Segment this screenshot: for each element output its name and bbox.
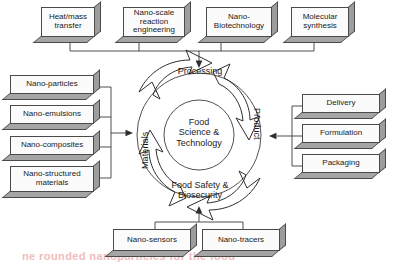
box-nano-scale-reaction-engineering[interactable]: Nano-scale reaction engineering	[123, 7, 191, 43]
box-side-face	[93, 99, 100, 124]
box-label-line-1: Packaging	[320, 159, 361, 168]
box-label-line-1: Nano-	[228, 12, 250, 21]
box-label-line-2: Biotechnology	[214, 21, 264, 30]
box-bottom-face	[33, 36, 95, 43]
box-label: Nano-scale reaction engineering	[123, 7, 185, 37]
box-label: Heat/mass transfer	[41, 7, 95, 37]
box-side-face	[279, 223, 286, 251]
arrowhead-bottom	[196, 206, 203, 214]
box-label: Nano- Biotechnology	[206, 7, 272, 37]
box-bottom-face	[294, 172, 380, 179]
box-label: Formulation	[302, 124, 380, 143]
box-bottom-face	[2, 154, 94, 161]
box-nano-emulsions[interactable]: Nano-emulsions	[10, 105, 100, 130]
box-label-line-2: transfer	[54, 21, 81, 30]
box-label-line-1: Molecular	[303, 12, 338, 21]
box-nano-sensors[interactable]: Nano-sensors	[113, 229, 197, 257]
box-molecular-synthesis[interactable]: Molecular synthesis	[291, 7, 355, 43]
box-packaging[interactable]: Packaging	[302, 154, 386, 179]
box-label-line-1: Nano-tracers	[216, 236, 266, 245]
box-label-line-1: Nano-structured	[23, 169, 80, 178]
box-label-line-2: synthesis	[303, 21, 336, 30]
box-label-line-1: Nano-composites	[19, 141, 85, 150]
box-side-face	[348, 1, 355, 37]
box-bottom-face	[2, 191, 94, 198]
box-bottom-face	[294, 112, 380, 119]
box-bottom-face	[198, 36, 272, 43]
box-side-face	[379, 88, 386, 113]
box-label-line-2: materials	[36, 178, 68, 187]
box-label: Nano-sensors	[113, 229, 191, 251]
box-label: Nano-composites	[10, 136, 94, 155]
box-label-line-2: reaction	[140, 17, 168, 26]
box-delivery[interactable]: Delivery	[302, 94, 386, 119]
box-label-line-1: Nano-scale	[134, 8, 174, 17]
center-line-3: Technology	[176, 138, 222, 148]
center-line-2: Science &	[179, 127, 220, 137]
center-line-1: Food	[189, 117, 210, 127]
box-nano-composites[interactable]: Nano-composites	[10, 136, 100, 161]
box-label-line-1: Delivery	[325, 99, 358, 108]
box-bottom-face	[283, 36, 349, 43]
box-label: Nano-tracers	[202, 229, 280, 251]
arrowhead-right	[269, 133, 277, 140]
cycle-label-food-safety: Food Safety & Biosecurity	[161, 180, 239, 201]
box-bottom-face	[115, 36, 185, 43]
box-side-face	[93, 130, 100, 155]
box-bottom-face	[2, 93, 94, 100]
box-label-line-1: Heat/mass	[49, 12, 87, 21]
box-label: Nano-structured materials	[10, 166, 94, 192]
box-label-line-3: engineering	[133, 25, 175, 34]
connector-left	[100, 87, 126, 178]
center-label: Food Science & Technology	[166, 117, 232, 148]
cycle-label-food-safety-line-1: Food Safety &	[171, 180, 228, 190]
box-label-line-1: Formulation	[318, 129, 364, 138]
box-side-face	[379, 148, 386, 173]
cycle-label-materials-text: Materials	[140, 132, 150, 169]
box-side-face	[271, 1, 278, 37]
cycle-label-processing: Processing	[169, 66, 231, 76]
box-heat-mass-transfer[interactable]: Heat/mass transfer	[41, 7, 101, 43]
box-bottom-face	[194, 250, 280, 257]
box-side-face	[94, 1, 101, 37]
cycle-label-food-safety-line-2: Biosecurity	[178, 190, 222, 200]
box-side-face	[93, 69, 100, 94]
box-side-face	[379, 118, 386, 143]
box-label: Delivery	[302, 94, 380, 113]
box-label-line-1: Nano-sensors	[125, 236, 179, 245]
box-bottom-face	[105, 250, 191, 257]
box-formulation[interactable]: Formulation	[302, 124, 386, 149]
box-nano-biotechnology[interactable]: Nano- Biotechnology	[206, 7, 278, 43]
box-side-face	[93, 160, 100, 192]
box-side-face	[184, 1, 191, 37]
box-nano-particles[interactable]: Nano-particles	[10, 75, 100, 100]
box-side-face	[190, 223, 197, 251]
arrowhead-left	[126, 130, 134, 137]
cycle-label-product: Product	[252, 108, 262, 166]
box-label: Molecular synthesis	[291, 7, 349, 37]
box-nano-tracers[interactable]: Nano-tracers	[202, 229, 286, 257]
cycle-label-processing-text: Processing	[178, 66, 223, 76]
box-bottom-face	[2, 123, 94, 130]
box-label: Nano-emulsions	[10, 105, 94, 124]
box-nano-structured-materials[interactable]: Nano-structured materials	[10, 166, 100, 198]
connector-bottom	[155, 212, 243, 229]
cycle-label-product-text: Product	[252, 108, 262, 140]
box-label: Packaging	[302, 154, 380, 173]
box-bottom-face	[294, 142, 380, 149]
cycle-label-materials: Materials	[140, 105, 150, 169]
box-label-line-1: Nano-emulsions	[21, 110, 83, 119]
box-label-line-1: Nano-particles	[24, 80, 80, 89]
box-label: Nano-particles	[10, 75, 94, 94]
